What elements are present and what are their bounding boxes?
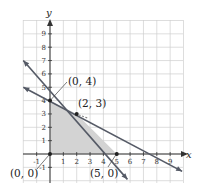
x-tick-label: 3 xyxy=(88,158,92,166)
y-tick-label: 2 xyxy=(42,124,46,132)
y-axis-label: y xyxy=(45,7,52,18)
vertex-label-5-0: (5, 0) xyxy=(90,167,118,179)
vertex-label-0-4: (0, 4) xyxy=(68,75,96,87)
vertex-label-2-3: (2, 3) xyxy=(78,97,106,109)
graph: -1123456789-1123456789 x y (0, 4) (2, 3)… xyxy=(0,0,200,193)
x-tick-label: 1 xyxy=(61,158,65,166)
y-tick-label: 8 xyxy=(42,44,46,52)
x-axis-label: x xyxy=(186,149,192,160)
leader-0-4 xyxy=(51,82,67,100)
x-tick-label: 4 xyxy=(101,158,106,166)
y-axis-arrow-icon xyxy=(47,19,53,26)
x-tick-label: 7 xyxy=(141,158,145,166)
vertex-point xyxy=(75,112,79,116)
vertex-label-0-0: (0, 0) xyxy=(10,167,38,179)
y-tick-label: 9 xyxy=(42,30,46,38)
x-tick-label: 6 xyxy=(128,158,133,166)
y-tick-label: 6 xyxy=(42,70,47,78)
y-tick-label: 1 xyxy=(42,137,46,145)
y-tick-label: 3 xyxy=(42,110,46,118)
y-tick-label: 7 xyxy=(42,57,46,65)
x-tick-label: 2 xyxy=(74,158,78,166)
